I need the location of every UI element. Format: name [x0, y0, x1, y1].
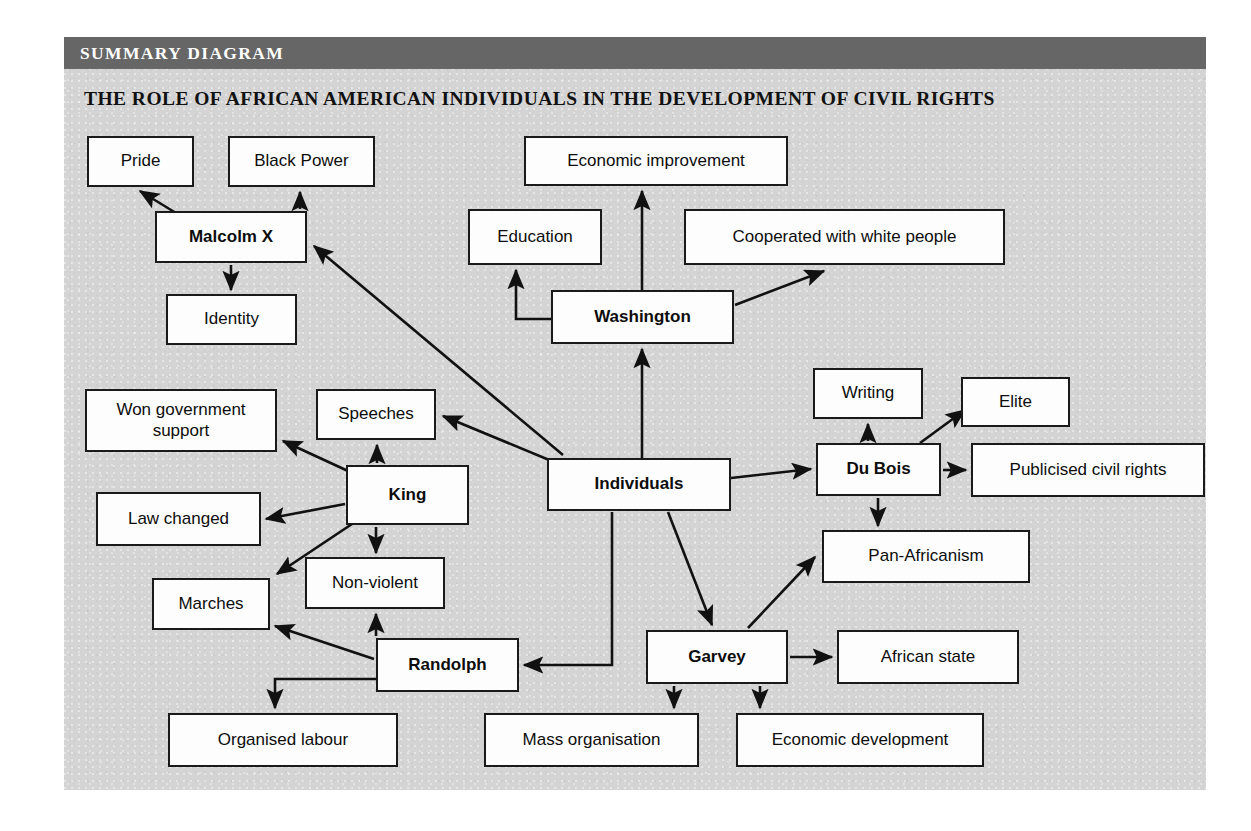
- node-publicised: Publicised civil rights: [971, 443, 1205, 497]
- node-label: Economic improvement: [567, 151, 745, 171]
- node-label: Randolph: [408, 655, 486, 675]
- node-cooperated: Cooperated with white people: [684, 209, 1005, 265]
- node-label: Pan-Africanism: [868, 546, 983, 566]
- node-education: Education: [468, 209, 602, 265]
- node-black-power: Black Power: [228, 136, 375, 187]
- edge-randolph-organisedlabour: [275, 679, 376, 708]
- edge-garvey-panafricanism: [748, 557, 815, 628]
- edge-individuals-speeches: [443, 416, 554, 462]
- node-garvey: Garvey: [646, 630, 788, 684]
- node-label: Du Bois: [846, 459, 910, 479]
- node-label: African state: [881, 647, 976, 667]
- node-label: Identity: [204, 309, 259, 329]
- node-label: King: [389, 485, 427, 505]
- node-label: Pride: [121, 151, 161, 171]
- edge-individuals-dubois: [731, 469, 811, 478]
- edge-dubois-elite: [920, 410, 965, 443]
- edge-malcolmx-pride: [140, 191, 176, 213]
- node-randolph: Randolph: [376, 638, 519, 692]
- page-root: SUMMARY DIAGRAM THE ROLE OF AFRICAN AMER…: [0, 0, 1251, 831]
- node-pride: Pride: [87, 136, 194, 187]
- node-mass-organisation: Mass organisation: [484, 713, 699, 767]
- edge-randolph-marches: [275, 626, 374, 659]
- node-washington: Washington: [551, 290, 734, 344]
- node-label: Garvey: [688, 647, 746, 667]
- node-label: Law changed: [128, 509, 229, 529]
- node-organised-labour: Organised labour: [168, 713, 398, 767]
- node-african-state: African state: [837, 630, 1019, 684]
- node-elite: Elite: [961, 377, 1070, 427]
- node-label: Malcolm X: [189, 227, 273, 247]
- edge-king-wongovernmentsupport: [283, 441, 348, 471]
- node-label: Individuals: [595, 474, 684, 494]
- node-pan-africanism: Pan-Africanism: [822, 530, 1030, 583]
- node-label: Publicised civil rights: [1010, 460, 1167, 480]
- node-label: Organised labour: [218, 730, 348, 750]
- summary-diagram-badge: SUMMARY DIAGRAM: [64, 37, 1206, 69]
- node-won-government-support: Won government support: [85, 389, 277, 452]
- node-speeches: Speeches: [316, 389, 436, 440]
- edge-individuals-garvey: [668, 512, 712, 625]
- node-label: Washington: [594, 307, 691, 327]
- node-label: Elite: [999, 392, 1032, 412]
- node-economic-improvement: Economic improvement: [524, 136, 788, 186]
- node-marches: Marches: [152, 578, 270, 630]
- page-title: THE ROLE OF AFRICAN AMERICAN INDIVIDUALS…: [84, 88, 995, 110]
- node-du-bois: Du Bois: [816, 443, 941, 496]
- edge-washington-cooperated: [735, 271, 824, 305]
- node-label: Marches: [178, 594, 243, 614]
- node-label: Speeches: [338, 404, 414, 424]
- node-label: Cooperated with white people: [733, 227, 957, 247]
- node-identity: Identity: [166, 294, 297, 345]
- node-label: Economic development: [772, 730, 949, 750]
- node-label: Writing: [842, 383, 895, 403]
- node-king: King: [346, 465, 469, 525]
- node-label: Black Power: [254, 151, 348, 171]
- node-non-violent: Non-violent: [305, 557, 445, 609]
- node-economic-development: Economic development: [736, 713, 984, 767]
- node-individuals: Individuals: [547, 458, 731, 511]
- node-law-changed: Law changed: [96, 492, 261, 546]
- node-label: Education: [497, 227, 573, 247]
- node-label: Non-violent: [332, 573, 418, 593]
- edge-individuals-randolph: [524, 512, 612, 665]
- summary-diagram-badge-label: SUMMARY DIAGRAM: [80, 43, 284, 64]
- node-malcolm-x: Malcolm X: [155, 211, 307, 263]
- node-label: Mass organisation: [523, 730, 661, 750]
- edge-king-lawchanged: [266, 504, 345, 519]
- node-label: Won government support: [91, 400, 271, 440]
- node-writing: Writing: [813, 368, 923, 419]
- edge-washington-education: [516, 270, 551, 319]
